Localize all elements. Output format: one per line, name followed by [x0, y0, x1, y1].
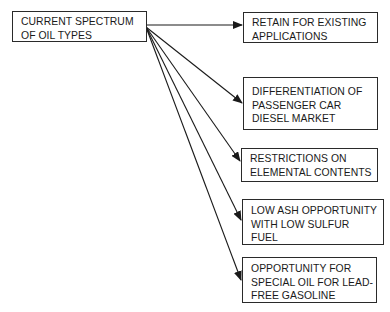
- target-2-line-3: DIESEL MARKET: [252, 112, 371, 126]
- source-line-2: OF OIL TYPES: [21, 29, 140, 43]
- arrow-to-restrictions: [146, 27, 240, 161]
- target-5-line-1: OPPORTUNITY FOR: [251, 262, 370, 276]
- target-2-line-2: PASSENGER CAR: [252, 99, 371, 113]
- target-5-line-3: FREE GASOLINE: [251, 289, 370, 303]
- source-box-current-spectrum: CURRENT SPECTRUM OF OIL TYPES: [12, 11, 147, 42]
- target-3-line-2: ELEMENTAL CONTENTS: [250, 166, 371, 180]
- arrow-to-low-ash: [146, 27, 241, 220]
- target-3-line-1: RESTRICTIONS ON: [250, 152, 371, 166]
- target-4-line-1: LOW ASH OPPORTUNITY: [251, 204, 377, 218]
- target-2-line-1: DIFFERENTIATION OF: [252, 85, 371, 99]
- target-4-line-3: FUEL: [251, 231, 377, 245]
- target-1-line-2: APPLICATIONS: [252, 30, 371, 44]
- target-5-line-2: SPECIAL OIL FOR LEAD-: [251, 276, 370, 290]
- source-line-1: CURRENT SPECTRUM: [21, 15, 140, 29]
- target-box-special-oil: OPPORTUNITY FOR SPECIAL OIL FOR LEAD- FR…: [242, 257, 377, 303]
- target-box-low-ash: LOW ASH OPPORTUNITY WITH LOW SULFUR FUEL: [242, 199, 384, 245]
- target-1-line-1: RETAIN FOR EXISTING: [252, 16, 371, 30]
- target-box-restrictions: RESTRICTIONS ON ELEMENTAL CONTENTS: [241, 148, 378, 182]
- target-box-retain: RETAIN FOR EXISTING APPLICATIONS: [243, 12, 378, 43]
- target-4-line-2: WITH LOW SULFUR: [251, 218, 377, 232]
- target-box-differentiation: DIFFERENTIATION OF PASSENGER CAR DIESEL …: [243, 77, 378, 130]
